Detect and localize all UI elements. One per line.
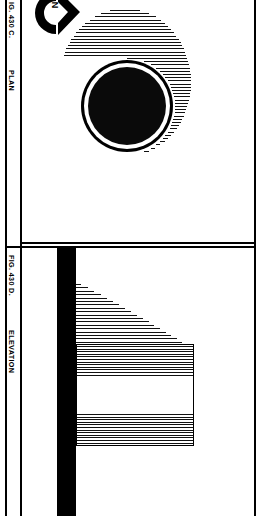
elevation-wall (57, 246, 76, 516)
plan-disc-core (88, 67, 166, 145)
elevation-view-label: ELEVATION (7, 330, 16, 373)
elevation-view (21, 246, 255, 516)
plan-view-label: PLAN (7, 70, 16, 91)
plan-view (21, 0, 255, 243)
drawing-sheet: IG. 430 C. PLAN FIG. 430 D. ELEVATION N (0, 0, 272, 516)
elevation-wedge-hatch (76, 282, 186, 344)
plan-figure-number: IG. 430 C. (7, 2, 16, 38)
elevation-box (76, 344, 194, 446)
elevation-box-top-hatch (77, 345, 193, 377)
elevation-figure-number: FIG. 430 D. (7, 255, 16, 296)
elevation-box-bottom-hatch (77, 413, 193, 445)
